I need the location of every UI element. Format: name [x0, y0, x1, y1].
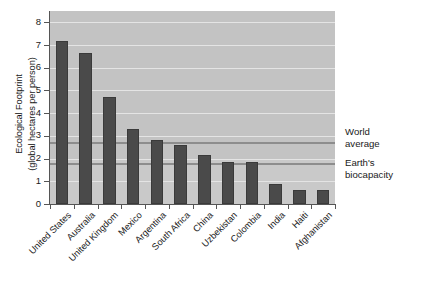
- annotation-world-average: World average: [345, 126, 380, 149]
- y-tick: 8: [44, 22, 49, 23]
- y-axis-line: [49, 11, 50, 205]
- y-tick: 3: [44, 136, 49, 137]
- reference-line-earths-biocapacity: [50, 163, 335, 165]
- annotation-earths-biocapacity: Earth's biocapacity: [345, 157, 393, 180]
- y-tick: 1: [44, 181, 49, 182]
- y-tick: 2: [44, 159, 49, 160]
- y-axis-title: Ecological Footprint (global hectares pe…: [0, 24, 30, 204]
- annotation-biocapacity-line1: Earth's: [345, 157, 393, 169]
- gridline: [50, 136, 335, 137]
- gridline: [50, 90, 335, 91]
- y-tick-label: 4: [36, 107, 41, 119]
- y-tick-label: 7: [36, 39, 41, 51]
- y-tick: 0: [44, 204, 49, 205]
- ecological-footprint-bar-chart: Ecological Footprint (global hectares pe…: [0, 0, 438, 285]
- y-tick-label: 8: [36, 16, 41, 28]
- x-axis-label-text: India: [266, 210, 288, 232]
- y-tick-label: 3: [36, 129, 41, 141]
- bar: [79, 53, 92, 204]
- gridline: [50, 22, 335, 23]
- gridline: [50, 68, 335, 69]
- y-tick: 6: [44, 68, 49, 69]
- annotation-biocapacity-line2: biocapacity: [345, 169, 393, 181]
- y-tick: 5: [44, 90, 49, 91]
- annotation-world-average-line1: World: [345, 126, 380, 138]
- y-tick-label: 1: [36, 175, 41, 187]
- bar: [56, 41, 69, 204]
- y-tick-label: 5: [36, 84, 41, 96]
- x-tick: [50, 204, 51, 209]
- plot-area: [50, 11, 335, 204]
- gridline: [50, 159, 335, 160]
- reference-line-world-average: [50, 142, 335, 144]
- y-tick-label: 0: [36, 198, 41, 210]
- gridline: [50, 45, 335, 46]
- annotation-world-average-line2: average: [345, 138, 380, 150]
- y-tick: 7: [44, 45, 49, 46]
- y-tick-label: 6: [36, 61, 41, 73]
- y-tick-label: 2: [36, 152, 41, 164]
- gridline: [50, 113, 335, 114]
- y-tick: 4: [44, 113, 49, 114]
